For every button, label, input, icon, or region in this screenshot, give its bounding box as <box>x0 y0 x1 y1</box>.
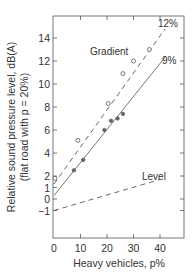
data-point <box>132 59 136 63</box>
y-tick-label: 1 <box>44 182 50 194</box>
annotation-level: Level <box>142 171 166 182</box>
y-ticks-right <box>180 38 184 211</box>
y-tick-label: 4 <box>44 147 50 159</box>
x-tick-label: 10 <box>75 242 87 254</box>
y-tick-label: 6 <box>44 124 50 136</box>
y-tick-label: 2 <box>44 170 50 182</box>
x-tick-labels: 0 10 20 30 40 <box>51 242 166 254</box>
y-tick-labels: 14 12 10 8 6 4 2 1 0 −1 <box>38 32 50 217</box>
y-tick-label: 10 <box>38 78 50 90</box>
y-tick-label: −1 <box>38 205 50 217</box>
data-point <box>116 117 120 121</box>
data-point <box>147 48 151 52</box>
annotation-12pct: 12% <box>158 18 178 29</box>
chart-canvas: 14 12 10 8 6 4 2 1 0 −1 0 10 20 30 40 He… <box>0 0 195 272</box>
data-point <box>106 102 110 106</box>
x-axis-label: Heavy vehicles, p% <box>73 257 165 269</box>
annotation-gradient: Gradient <box>90 46 129 57</box>
y-tick-label: 12 <box>38 55 50 67</box>
data-point <box>109 119 113 123</box>
x-tick-label: 0 <box>51 242 57 254</box>
data-point <box>81 158 85 162</box>
data-point <box>103 128 107 132</box>
data-point <box>76 138 80 142</box>
data-point <box>121 72 125 76</box>
x-tick-label: 30 <box>128 242 140 254</box>
y-tick-label: 0 <box>44 193 50 205</box>
y-tick-label: 8 <box>44 101 50 113</box>
y-axis-sublabel: (flat road with p = 20%) <box>18 73 30 181</box>
annotation-9pct: 9% <box>162 55 177 66</box>
y-axis-label: Relative sound pressure level, dB(A) <box>5 42 17 212</box>
series-open-circles <box>53 48 151 181</box>
y-ticks-left <box>53 38 57 211</box>
y-tick-label: 14 <box>38 32 50 44</box>
data-point <box>121 112 125 116</box>
data-point <box>53 176 57 180</box>
data-point <box>72 169 76 173</box>
level-line <box>54 180 160 211</box>
x-tick-label: 20 <box>101 242 113 254</box>
x-tick-label: 40 <box>154 242 166 254</box>
